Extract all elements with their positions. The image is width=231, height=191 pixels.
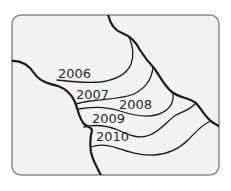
map-frame bbox=[12, 15, 219, 175]
contour-map-svg: 2006 2007 2008 2009 2010 bbox=[0, 0, 231, 191]
label-2008: 2008 bbox=[119, 97, 152, 112]
label-2006: 2006 bbox=[58, 66, 91, 81]
map-diagram: 2006 2007 2008 2009 2010 bbox=[0, 0, 231, 191]
label-2010: 2010 bbox=[96, 129, 129, 144]
label-2007: 2007 bbox=[76, 87, 109, 102]
label-2009: 2009 bbox=[92, 111, 125, 126]
